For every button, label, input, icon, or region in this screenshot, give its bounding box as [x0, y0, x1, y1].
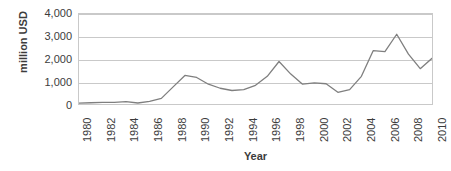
x-tick-label: 1988 — [177, 118, 188, 142]
x-tick-label: 1996 — [271, 118, 282, 142]
x-tick-label: 1994 — [248, 118, 259, 142]
y-tick-label: 1,000 — [44, 76, 72, 88]
y-tick-label: 2,000 — [44, 53, 72, 65]
x-tick-label: 2008 — [413, 118, 424, 142]
x-tick-label: 1982 — [106, 118, 117, 142]
x-axis-title: Year — [78, 150, 433, 162]
y-tick-label: 4,000 — [44, 7, 72, 19]
x-tick-label: 1986 — [153, 118, 164, 142]
y-tick-label: 0 — [66, 99, 72, 111]
x-tick-label: 1984 — [129, 118, 140, 142]
y-tick-label: 3,000 — [44, 30, 72, 42]
y-axis-tick-labels: 01,0002,0003,0004,000 — [30, 7, 76, 112]
data-line — [79, 34, 432, 103]
x-tick-label: 2006 — [390, 118, 401, 142]
x-tick-label: 1980 — [82, 118, 93, 142]
x-tick-label: 2002 — [342, 118, 353, 142]
x-axis-tick-labels: 1980198219841986198819901992199419961998… — [78, 106, 433, 150]
x-tick-label: 2010 — [437, 118, 448, 142]
x-tick-label: 2000 — [319, 118, 330, 142]
line-chart: million USD 01,0002,0003,0004,000 198019… — [0, 0, 451, 171]
y-axis-title: million USD — [17, 0, 29, 87]
series-line — [79, 14, 432, 104]
x-tick-label: 2004 — [366, 118, 377, 142]
x-tick-label: 1998 — [295, 118, 306, 142]
x-tick-label: 1990 — [200, 118, 211, 142]
plot-area — [78, 13, 433, 105]
x-tick-label: 1992 — [224, 118, 235, 142]
